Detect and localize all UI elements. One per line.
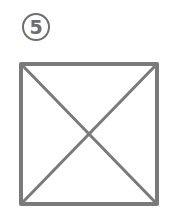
diagram-figure: 5 <box>0 0 170 219</box>
circled-number-label: 5 <box>23 14 49 40</box>
square-with-diagonals <box>21 64 157 204</box>
label-number: 5 <box>29 16 42 38</box>
